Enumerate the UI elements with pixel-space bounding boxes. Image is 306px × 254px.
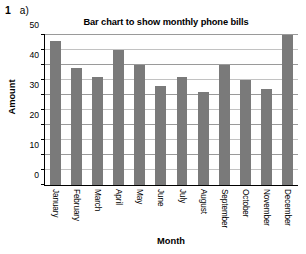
x-axis-tick-label: October <box>241 189 250 217</box>
bar-chart: Bar chart to show monthly phone bills Am… <box>0 0 306 254</box>
x-label-slot: April <box>108 188 129 234</box>
x-axis-tick-label: March <box>92 189 101 211</box>
bar-slot <box>214 35 235 185</box>
bar-november <box>261 89 272 185</box>
bar-slot <box>193 35 214 185</box>
y-axis-tick-label: 20 <box>29 110 39 120</box>
bar-march <box>92 77 103 185</box>
x-label-slot: September <box>213 188 234 234</box>
bar-slot <box>87 35 108 185</box>
bar-january <box>50 41 61 185</box>
bar-slot <box>277 35 298 185</box>
bar-slot <box>45 35 66 185</box>
x-axis-title: Month <box>44 236 298 246</box>
x-label-slot: January <box>44 188 65 234</box>
x-label-slot: June <box>150 188 171 234</box>
bar-september <box>219 65 230 185</box>
bar-slot <box>129 35 150 185</box>
x-axis-tick-label: September <box>219 189 228 228</box>
x-label-slot: March <box>86 188 107 234</box>
bar-series <box>45 35 298 185</box>
chart-title: Bar chart to show monthly phone bills <box>40 17 292 27</box>
x-axis-tick-label: February <box>71 189 80 221</box>
x-axis-tick-label: April <box>114 189 123 205</box>
x-label-slot: November <box>256 188 277 234</box>
x-label-slot: July <box>171 188 192 234</box>
plot-area: 01020304050 <box>44 35 298 186</box>
y-axis-tick-label: 0 <box>34 170 39 180</box>
y-axis-tick-label: 30 <box>29 80 39 90</box>
bar-slot <box>235 35 256 185</box>
bar-june <box>155 86 166 185</box>
x-axis-tick-label: May <box>135 189 144 204</box>
x-label-slot: February <box>65 188 86 234</box>
bar-slot <box>150 35 171 185</box>
x-axis-labels: JanuaryFebruaryMarchAprilMayJuneJulyAugu… <box>44 188 298 234</box>
y-axis-tick-label: 50 <box>29 20 39 30</box>
bar-slot <box>108 35 129 185</box>
y-axis-title: Amount <box>7 67 17 127</box>
bar-slot <box>256 35 277 185</box>
x-label-slot: December <box>277 188 298 234</box>
x-axis-tick-label: December <box>283 189 292 226</box>
y-axis-tick-label: 10 <box>29 140 39 150</box>
x-axis-tick-label: June <box>156 189 165 206</box>
x-axis-tick-label: November <box>262 189 271 226</box>
bar-october <box>240 80 251 185</box>
bar-slot <box>66 35 87 185</box>
x-label-slot: May <box>129 188 150 234</box>
bar-july <box>177 77 188 185</box>
x-axis-tick-label: August <box>198 189 207 214</box>
y-axis-tick-label: 40 <box>29 50 39 60</box>
bar-may <box>134 65 145 185</box>
bar-february <box>71 68 82 185</box>
bar-slot <box>171 35 192 185</box>
x-label-slot: August <box>192 188 213 234</box>
x-axis-tick-label: January <box>50 189 59 217</box>
bar-april <box>113 50 124 185</box>
bar-august <box>198 92 209 185</box>
x-axis-tick-label: July <box>177 189 186 203</box>
bar-december <box>282 35 293 185</box>
x-label-slot: October <box>235 188 256 234</box>
